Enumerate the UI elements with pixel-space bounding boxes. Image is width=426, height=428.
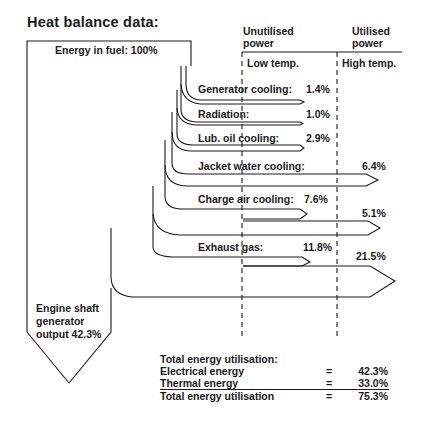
exhaust-high-band xyxy=(111,228,395,297)
summary-total-label: Total energy utilisation xyxy=(160,390,326,402)
page-title: Heat balance data: xyxy=(27,14,159,30)
radiation-value: 1.0% xyxy=(306,108,330,120)
lub-oil-value: 2.9% xyxy=(306,132,330,144)
summary-thermal-label: Thermal energy xyxy=(160,377,326,389)
header-utilised: Utilised power xyxy=(352,25,390,49)
jacket-water-value: 6.4% xyxy=(362,160,386,172)
generator-cooling-value: 1.4% xyxy=(306,83,330,95)
charge-air-high-value: 5.1% xyxy=(362,207,386,219)
summary-row-total: Total energy utilisation = 75.3% xyxy=(160,390,389,402)
summary-row-thermal: Thermal energy = 33.0% xyxy=(160,377,389,389)
header-low-temp: Low temp. xyxy=(247,57,299,69)
summary-heading: Total energy utilisation: xyxy=(160,353,389,365)
output-label-line3: output 42.3% xyxy=(36,328,101,341)
header-high-temp: High temp. xyxy=(342,57,396,69)
header-unutilised: Unutilised power xyxy=(243,25,294,49)
output-label: Engine shaft generator output 42.3% xyxy=(36,302,101,341)
generator-cooling-label: Generator cooling: xyxy=(198,83,292,95)
output-label-line2: generator xyxy=(36,315,101,328)
summary-total-value: 75.3% xyxy=(348,390,388,402)
summary-thermal-value: 33.0% xyxy=(348,377,388,389)
jacket-water-label: Jacket water cooling: xyxy=(198,160,305,172)
summary-thermal-eq: = xyxy=(326,377,348,389)
charge-air-band xyxy=(165,165,307,219)
exhaust-band xyxy=(153,214,310,266)
summary-total-eq: = xyxy=(326,390,348,402)
radiation-label: Radiation: xyxy=(198,108,249,120)
header-utilised-line1: Utilised xyxy=(352,25,390,37)
summary-electrical-label: Electrical energy xyxy=(160,365,326,377)
header-utilised-line2: power xyxy=(352,37,390,49)
charge-air-label: Charge air cooling: xyxy=(198,193,294,205)
summary-electrical-value: 42.3% xyxy=(348,365,388,377)
summary-table: Total energy utilisation: Electrical ene… xyxy=(160,353,389,402)
output-label-line1: Engine shaft xyxy=(36,302,101,315)
lub-oil-label: Lub. oil cooling: xyxy=(198,132,279,144)
header-unutilised-line2: power xyxy=(243,37,294,49)
header-unutilised-line1: Unutilised xyxy=(243,25,294,37)
source-label: Energy in fuel: 100% xyxy=(55,44,158,56)
summary-electrical-eq: = xyxy=(326,365,348,377)
summary-row-electrical: Electrical energy = 42.3% xyxy=(160,365,389,377)
exhaust-gas-high-value: 21.5% xyxy=(356,250,386,262)
main-trunk xyxy=(27,41,191,332)
charge-air-value: 7.6% xyxy=(304,193,328,205)
exhaust-gas-value: 11.8% xyxy=(303,241,332,253)
exhaust-gas-label: Exhaust gas: xyxy=(198,241,263,253)
